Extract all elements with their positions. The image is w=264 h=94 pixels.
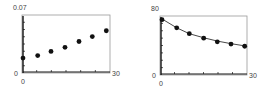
y-min-label: 0 xyxy=(152,72,156,79)
fit-curve xyxy=(161,18,245,46)
data-point xyxy=(187,31,192,36)
chart-left: 0.070030 xyxy=(0,0,132,94)
x-max-label: 30 xyxy=(112,70,120,77)
data-point xyxy=(63,45,68,50)
data-point xyxy=(160,17,165,22)
plot-frame xyxy=(22,15,110,73)
data-point xyxy=(35,53,40,58)
data-point xyxy=(90,34,95,39)
data-point xyxy=(49,49,54,54)
y-max-label: 0.07 xyxy=(13,4,27,11)
x-min-label: 0 xyxy=(159,80,163,87)
data-point xyxy=(174,25,179,30)
x-max-label: 30 xyxy=(249,72,257,79)
x-min-label: 0 xyxy=(21,78,25,85)
data-point xyxy=(215,39,220,44)
plot-frame xyxy=(160,16,247,75)
data-point xyxy=(21,56,26,61)
chart-right: 800030 xyxy=(132,0,264,94)
data-point xyxy=(242,44,247,49)
data-point xyxy=(77,39,82,44)
y-max-label: 80 xyxy=(151,5,159,12)
data-point xyxy=(104,28,109,33)
data-point xyxy=(201,36,206,41)
data-point xyxy=(229,42,234,47)
y-min-label: 0 xyxy=(14,70,18,77)
